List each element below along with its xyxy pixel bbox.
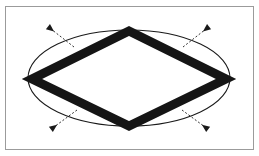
- geometry-figure: [0, 0, 259, 156]
- figure-root: [0, 0, 259, 156]
- ellipse-outline: [28, 30, 230, 126]
- dashed-leader-southeast: [182, 110, 205, 127]
- rhombus-outline: [32, 31, 226, 126]
- dashed-leader-northwest: [51, 29, 74, 47]
